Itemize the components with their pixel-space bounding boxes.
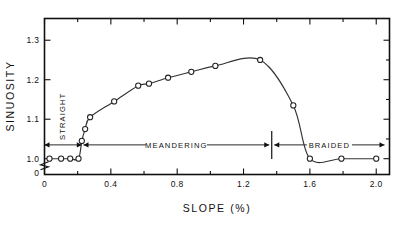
x-tick-label: 0.4 [104, 179, 117, 189]
axis-break-symbol [41, 162, 49, 170]
y-tick-label: 1.1 [26, 114, 39, 124]
data-point-marker [58, 156, 63, 161]
braided-arrow-arrow-left [274, 142, 279, 147]
data-point-marker [339, 156, 344, 161]
data-point-marker [76, 156, 81, 161]
data-point-marker [136, 83, 141, 88]
data-point-marker [112, 99, 117, 104]
region-annotations: STRAIGHTMEANDERINGBRAIDED [45, 93, 385, 159]
data-point-marker [68, 156, 73, 161]
data-point-marker [83, 126, 88, 131]
x-tick-label: 1.6 [303, 179, 316, 189]
y-axis-title: SINUOSITY [4, 61, 16, 132]
data-point-marker [291, 103, 296, 108]
x-axis-major-ticks [45, 19, 377, 175]
data-point-marker [88, 115, 93, 120]
plot-frame [45, 19, 390, 175]
data-point-marker [213, 63, 218, 68]
x-tick-label: 0 [42, 179, 47, 189]
label-meandering: MEANDERING [145, 141, 207, 150]
data-point-marker [189, 69, 194, 74]
meandering-arrow-arrow-left [83, 142, 88, 147]
x-axis-minor-ticks [78, 19, 343, 175]
data-point-marker [47, 156, 52, 161]
meandering-arrow-arrow-right [264, 142, 269, 147]
data-point-marker [79, 138, 84, 143]
data-point-marker [165, 75, 170, 80]
x-tick-label: 0.8 [171, 179, 184, 189]
y-tick-label: 0 [34, 168, 39, 178]
y-tick-label: 1.3 [26, 35, 39, 45]
chart-figure: 00.40.81.21.62.0 01.01.11.21.3 STRAIGHTM… [0, 0, 418, 225]
break-zigzag [41, 162, 49, 170]
braided-arrow-arrow-right [380, 142, 385, 147]
data-point-marker [258, 57, 263, 62]
x-axis-tick-labels: 00.40.81.21.62.0 [42, 179, 383, 189]
label-straight: STRAIGHT [58, 93, 67, 140]
x-tick-label: 2.0 [370, 179, 383, 189]
x-axis-title: SLOPE (%) [183, 202, 252, 214]
label-braided: BRAIDED [309, 141, 350, 150]
data-point-marker [146, 81, 151, 86]
straight-arrow [45, 142, 82, 147]
y-tick-label: 1.0 [26, 154, 39, 164]
data-point-marker [307, 156, 312, 161]
y-axis-tick-labels: 01.01.11.21.3 [26, 35, 39, 177]
sinuosity-slope-chart: 00.40.81.21.62.0 01.01.11.21.3 STRAIGHTM… [0, 0, 418, 225]
y-tick-label: 1.2 [26, 75, 39, 85]
x-tick-label: 1.2 [237, 179, 250, 189]
data-point-marker [374, 156, 379, 161]
